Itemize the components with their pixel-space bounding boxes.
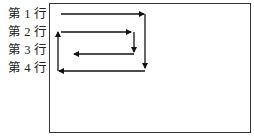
scan-arrows [0,0,254,140]
